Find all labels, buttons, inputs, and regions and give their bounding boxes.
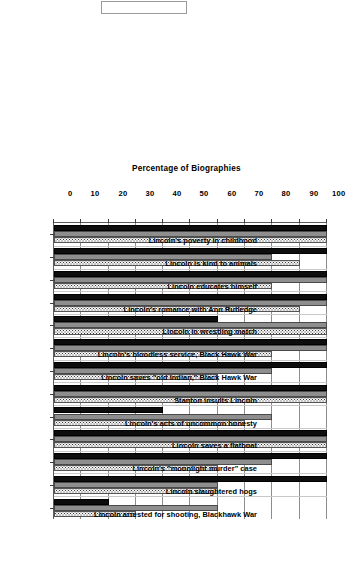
category-axis-label: Lincoln is kind to animals: [47, 259, 257, 268]
value-axis-tick: [108, 219, 109, 223]
category-axis-label: Lincoln in wrestling match: [47, 327, 257, 336]
category-axis-label: Lincoln's acts of uncommon honesty: [47, 419, 257, 428]
category-separator: [54, 451, 327, 452]
value-axis-tick: [190, 219, 191, 223]
category-separator: [54, 360, 327, 361]
category-separator: [54, 382, 327, 383]
value-axis-tick: [244, 219, 245, 223]
category-axis-label: Lincoln educates himself: [47, 282, 257, 291]
category-separator: [54, 496, 327, 497]
category-axis-label: Lincoln saves a flatboat: [47, 441, 257, 450]
category-separator: [54, 473, 327, 474]
category-axis-label: Lincoln saves "old Indian," Black Hawk W…: [47, 373, 257, 382]
value-axis-tick: [299, 219, 300, 223]
category-separator: [54, 428, 327, 429]
category-axis-label: Stanton insults Lincoln: [47, 396, 257, 405]
category-axis-label: Lincoln's poverty in childhood: [47, 236, 257, 245]
value-axis-tick: [135, 219, 136, 223]
gridline: [299, 223, 300, 519]
value-axis-tick: [326, 219, 327, 223]
category-separator: [54, 405, 327, 406]
value-axis-tick: [53, 219, 54, 223]
category-axis-label: Lincoln slaughtered hogs: [47, 487, 257, 496]
category-separator: [54, 337, 327, 338]
category-separator: [54, 246, 327, 247]
category-axis-label: Lincoln arrested for shooting, Blackhawk…: [47, 510, 257, 519]
value-axis-tick-label: 100: [312, 189, 346, 198]
value-axis-tick: [217, 219, 218, 223]
value-axis-tick: [162, 219, 163, 223]
category-axis-label: Lincoln's "moonlight murder" case: [47, 464, 257, 473]
category-separator: [54, 314, 327, 315]
gridline: [326, 223, 327, 519]
category-axis-label: Lincoln's bloodless service, Black Hawk …: [47, 350, 257, 359]
category-separator: [54, 269, 327, 270]
value-axis-tick: [271, 219, 272, 223]
category-axis-label: Lincoln's romance with Ann Rutledge: [47, 305, 257, 314]
category-separator: [54, 291, 327, 292]
value-axis-title: Percentage of Biographies: [133, 164, 242, 173]
value-axis-tick: [80, 219, 81, 223]
